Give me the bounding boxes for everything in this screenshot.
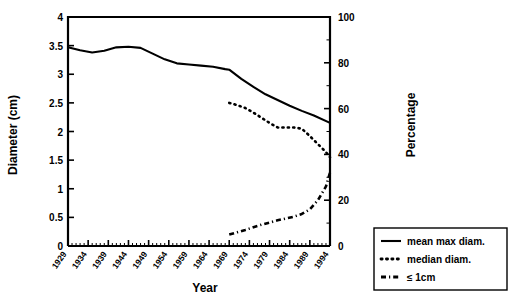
x-tick-label: 1984 — [271, 249, 290, 270]
legend-label: mean max diam. — [407, 236, 485, 247]
y-left-tick-label: 2 — [57, 127, 63, 138]
y-right-tick-label: 0 — [338, 241, 344, 252]
x-tick-label: 1934 — [70, 249, 89, 270]
x-tick-label: 1929 — [50, 249, 69, 270]
y-left-tick-label: 1 — [57, 184, 63, 195]
y-left-tick-label: 0.5 — [49, 212, 63, 223]
x-tick-label: 1969 — [211, 249, 230, 270]
series-line — [229, 103, 330, 157]
x-tick-label: 1974 — [231, 249, 250, 270]
y-right-tick-label: 80 — [338, 58, 350, 69]
legend-label: median diam. — [407, 254, 471, 265]
y-left-tick-label: 3.5 — [49, 41, 63, 52]
x-tick-label: 1959 — [171, 249, 190, 270]
y-axis-left-title: Diameter (cm) — [6, 95, 20, 175]
x-tick-label: 1954 — [150, 249, 169, 270]
legend: mean max diam.median diam.≤ 1cm — [374, 228, 507, 290]
y-axis-right-title: Percentage — [404, 92, 418, 157]
y-right-tick-label: 100 — [338, 12, 355, 23]
x-tick-label: 1979 — [251, 249, 270, 270]
x-tick-label: 1989 — [291, 249, 310, 270]
y-right-tick-label: 40 — [338, 149, 350, 160]
plot-frame — [68, 17, 330, 246]
y-left-tick-label: 4 — [57, 12, 63, 23]
y-left-tick-label: 2.5 — [49, 98, 63, 109]
x-tick-label: 1939 — [90, 249, 109, 270]
data-series-layer — [68, 47, 330, 235]
y-left-tick-label: 1.5 — [49, 155, 63, 166]
x-tick-label: 1964 — [191, 249, 210, 270]
x-tick-label: 1994 — [312, 249, 331, 270]
series-line — [68, 47, 330, 123]
chart-figure: 00.511.522.533.54 020406080100 192919341… — [0, 0, 511, 300]
y-axis-left-tick-labels: 00.511.522.533.54 — [49, 12, 63, 252]
y-left-tick-label: 3 — [57, 69, 63, 80]
legend-label: ≤ 1cm — [407, 272, 435, 283]
x-axis-tick-labels: 1929193419391944194919541959196419691974… — [50, 249, 331, 270]
x-tick-label: 1949 — [130, 249, 149, 270]
chart-canvas: 00.511.522.533.54 020406080100 192919341… — [0, 0, 511, 300]
x-axis-title: Year — [192, 281, 218, 295]
y-axis-right-tick-labels: 020406080100 — [338, 12, 355, 252]
y-right-tick-label: 20 — [338, 195, 350, 206]
y-right-tick-label: 60 — [338, 104, 350, 115]
series-line — [229, 173, 330, 235]
x-tick-label: 1944 — [110, 249, 129, 270]
